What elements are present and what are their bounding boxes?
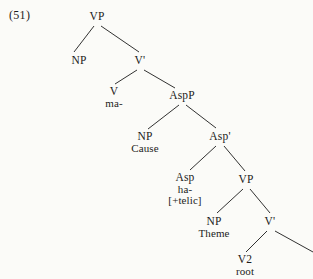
tree-node-vbar-top: V' bbox=[135, 55, 146, 67]
node-feature-label: [+telic] bbox=[168, 195, 201, 206]
tree-branch bbox=[275, 231, 313, 252]
node-label: V' bbox=[265, 216, 276, 228]
tree-branch bbox=[190, 146, 216, 170]
tree-node-np-spec: NP bbox=[71, 55, 86, 67]
example-number: (51) bbox=[9, 8, 30, 23]
node-label: VP bbox=[89, 11, 104, 23]
node-label: Asp' bbox=[209, 131, 230, 143]
tree-branch bbox=[186, 105, 216, 128]
tree-node-vp-low: VP bbox=[238, 174, 253, 186]
tree-node-vbar-low: V' bbox=[265, 216, 276, 228]
tree-node-v-head: Vma- bbox=[105, 86, 122, 109]
node-label: AspP bbox=[169, 90, 195, 102]
tree-node-aspbar: Asp' bbox=[209, 131, 230, 143]
node-sublabel: root bbox=[236, 266, 254, 277]
node-label: NP bbox=[131, 131, 158, 143]
tree-branch bbox=[148, 105, 179, 129]
node-label: VP bbox=[238, 174, 253, 186]
tree-node-asp-head: Aspha-[+telic] bbox=[168, 172, 201, 206]
node-sublabel: ma- bbox=[105, 98, 122, 109]
tree-branch bbox=[115, 70, 137, 84]
tree-branch bbox=[250, 189, 270, 213]
tree-branch bbox=[217, 189, 243, 213]
tree-node-vp-top: VP bbox=[89, 11, 104, 23]
node-label: NP bbox=[198, 216, 229, 228]
node-label: V bbox=[105, 86, 122, 98]
node-sublabel: Theme bbox=[198, 228, 229, 239]
node-label: V' bbox=[135, 55, 146, 67]
tree-node-np-cause: NPCause bbox=[131, 131, 158, 154]
node-label: V2 bbox=[236, 254, 254, 266]
tree-node-v2-root: V2root bbox=[236, 254, 254, 277]
tree-branch bbox=[101, 26, 139, 52]
tree-branch bbox=[246, 231, 267, 252]
tree-branch bbox=[74, 26, 94, 52]
node-label: Asp bbox=[168, 172, 201, 184]
syntax-tree-figure: (51) VPNPV'Vma-AspPNPCauseAsp'Aspha-[+te… bbox=[0, 0, 313, 279]
node-label: NP bbox=[71, 55, 86, 67]
node-sublabel: Cause bbox=[131, 143, 158, 154]
tree-branch bbox=[224, 146, 245, 171]
tree-node-aspp: AspP bbox=[169, 90, 195, 102]
tree-branch bbox=[144, 70, 175, 88]
tree-node-np-theme: NPTheme bbox=[198, 216, 229, 239]
